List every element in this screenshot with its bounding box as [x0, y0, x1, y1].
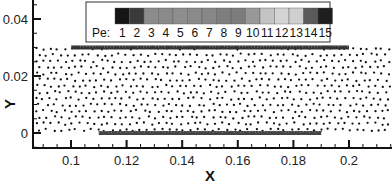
particle-point: [117, 52, 119, 54]
particle-point: [355, 103, 357, 105]
line-particle: [197, 45, 198, 46]
line-particle: [305, 46, 306, 47]
particle-point: [98, 128, 100, 130]
particle-point: [64, 124, 66, 126]
particle-point: [359, 98, 361, 100]
particle-point: [264, 72, 266, 74]
particle-point: [153, 128, 155, 130]
line-particle: [296, 46, 297, 47]
particle-point: [302, 72, 304, 74]
particle-point: [377, 79, 379, 81]
particle-point: [70, 96, 72, 98]
particle-point: [261, 53, 263, 55]
line-particle: [224, 46, 225, 47]
particle-point: [248, 80, 250, 82]
particle-point: [380, 48, 382, 50]
particle-point: [356, 54, 358, 56]
particle-point: [244, 59, 246, 61]
particle-point: [78, 121, 80, 123]
particle-point: [337, 122, 339, 124]
particle-point: [199, 121, 201, 123]
particle-point: [334, 90, 336, 92]
particle-point: [313, 117, 315, 119]
particle-point: [209, 98, 211, 100]
particle-point: [121, 61, 123, 63]
particle-point: [293, 98, 295, 100]
line-particle: [174, 132, 175, 133]
legend-label: 9: [235, 26, 242, 40]
particle-point: [154, 53, 156, 55]
particle-point: [63, 84, 65, 86]
particle-point: [151, 97, 153, 99]
particle-point: [171, 98, 173, 100]
particle-point: [84, 60, 86, 62]
particle-point: [221, 71, 223, 73]
particle-point: [272, 72, 274, 74]
line-particle: [213, 132, 214, 133]
x-tick-label: 0.1: [62, 153, 80, 168]
particle-point: [75, 91, 77, 93]
particle-point: [166, 110, 168, 112]
particle-point: [85, 110, 87, 112]
particle-point: [143, 61, 145, 63]
particle-point: [297, 105, 299, 107]
line-particle: [83, 46, 84, 47]
particle-point: [384, 104, 386, 106]
particle-point: [316, 72, 318, 74]
particle-point: [276, 92, 278, 94]
particle-point: [74, 80, 76, 82]
line-particle: [251, 46, 252, 47]
particle-point: [54, 115, 56, 117]
line-particle: [275, 46, 276, 47]
particle-point: [356, 90, 358, 92]
particle-point: [100, 85, 102, 87]
particle-point: [230, 99, 232, 101]
particle-point: [272, 60, 274, 62]
particle-point: [361, 66, 363, 68]
particle-point: [157, 98, 159, 100]
particle-point: [101, 124, 103, 126]
legend-title: Pe:: [92, 26, 110, 40]
particle-point: [374, 61, 376, 63]
line-particle: [104, 46, 105, 47]
particle-point: [338, 60, 340, 62]
particle-point: [181, 79, 183, 81]
line-particle: [188, 45, 189, 46]
particle-point: [196, 54, 198, 56]
line-particle: [153, 131, 154, 132]
legend-label: 4: [162, 26, 169, 40]
legend-swatch: [260, 8, 275, 24]
particle-point: [340, 54, 342, 56]
particle-point: [72, 85, 74, 87]
particle-point: [58, 85, 60, 87]
particle-point: [387, 123, 389, 125]
particle-point: [306, 128, 308, 130]
particle-point: [277, 53, 279, 55]
particle-point: [228, 123, 230, 125]
line-particle: [132, 132, 133, 133]
line-particle: [204, 131, 205, 132]
legend-swatch: [144, 8, 159, 24]
line-particle: [284, 45, 285, 46]
line-particle: [347, 46, 348, 47]
particle-point: [111, 66, 113, 68]
particle-point: [331, 72, 333, 74]
line-particle: [315, 132, 316, 133]
particle-point: [267, 84, 269, 86]
particle-point: [103, 90, 105, 92]
particle-point: [373, 97, 375, 99]
particle-point: [365, 96, 367, 98]
particle-point: [311, 53, 313, 55]
particle-point: [132, 79, 134, 81]
particle-point: [87, 53, 89, 55]
y-tick-label: 0.02: [3, 69, 28, 84]
particle-point: [317, 84, 319, 86]
particle-point: [136, 122, 138, 124]
particle-point: [216, 97, 218, 99]
particle-point: [387, 98, 389, 100]
particle-point: [194, 122, 196, 124]
particle-point: [212, 116, 214, 118]
x-tick-label: 0.2: [340, 153, 358, 168]
line-particle: [95, 46, 96, 47]
particle-point: [110, 79, 112, 81]
